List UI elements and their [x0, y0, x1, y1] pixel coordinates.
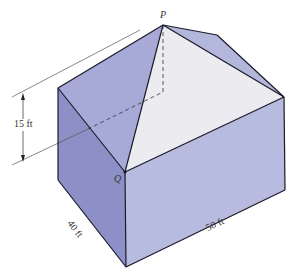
label-height: 15 ft [14, 118, 33, 129]
diagram-svg [0, 0, 295, 275]
arrow-down-icon [21, 155, 25, 162]
label-q: Q [114, 173, 121, 184]
house-diagram: P Q 15 ft 40 ft 50 ft [0, 0, 295, 275]
point-q-marker [124, 171, 127, 174]
arrow-up-icon [21, 93, 25, 100]
label-p: P [160, 9, 166, 20]
